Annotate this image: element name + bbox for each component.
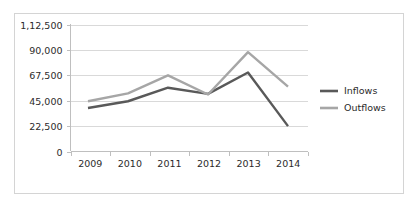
chart-legend: InflowsOutflows (320, 85, 386, 113)
x-axis-labels-group: 200920102011201220132014 (78, 158, 300, 169)
legend-label-inflows: Inflows (344, 85, 377, 96)
x-axis-tick-label: 2009 (78, 158, 102, 169)
x-tick-marks-group (72, 152, 309, 156)
gridlines-group (71, 26, 309, 127)
x-axis-tick-label: 2011 (157, 158, 181, 169)
y-axis-tick-label: 22,500 (29, 121, 62, 132)
data-series-group (88, 52, 288, 126)
x-axis-tick-label: 2013 (237, 158, 261, 169)
legend-label-outflows: Outflows (344, 102, 386, 113)
chart-canvas: 022,50045,00067,50090,0001,12,500 200920… (0, 0, 419, 207)
series-line-outflows (88, 52, 288, 101)
y-axis-tick-label: 45,000 (29, 96, 62, 107)
y-axis-tick-label: 0 (56, 147, 62, 158)
series-line-inflows (88, 72, 288, 126)
y-tick-marks-group (67, 26, 71, 153)
y-axis-labels-group: 022,50045,00067,50090,0001,12,500 (20, 20, 62, 158)
x-axis-tick-label: 2010 (118, 158, 142, 169)
x-axis-tick-label: 2012 (197, 158, 221, 169)
y-axis-tick-label: 1,12,500 (20, 20, 62, 31)
x-axis-tick-label: 2014 (276, 158, 300, 169)
line-chart: 022,50045,00067,50090,0001,12,500 200920… (0, 0, 419, 207)
y-axis-tick-label: 67,500 (29, 70, 62, 81)
y-axis-tick-label: 90,000 (29, 45, 62, 56)
